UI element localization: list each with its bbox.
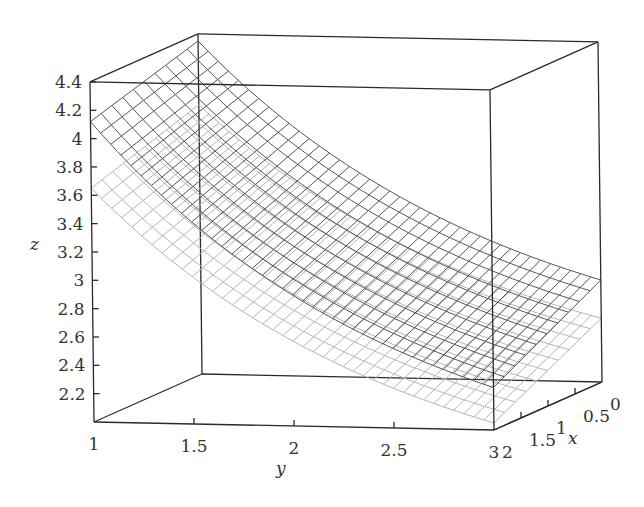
x-tick-label: 1.5 <box>529 430 556 450</box>
z-tick-label: 2.8 <box>58 299 85 319</box>
x-tick-label: 0.5 <box>583 406 610 426</box>
z-tick-label: 3.6 <box>56 185 83 205</box>
x-axis-label: x <box>568 428 578 448</box>
x-axis-ticks: 00.511.52 <box>502 388 621 462</box>
z-tick-label: 4 <box>72 129 83 149</box>
x-tick-label: 1 <box>556 418 567 438</box>
z-tick-label: 3.2 <box>57 242 84 262</box>
z-tick-label: 4.4 <box>55 72 82 92</box>
z-tick-label: 2.4 <box>58 355 85 375</box>
x-tick-label: 0 <box>610 394 621 414</box>
z-tick-label: 3 <box>74 270 85 290</box>
z-tick-label: 3.8 <box>56 157 83 177</box>
surface-plot: 2.22.42.62.833.23.43.63.844.24.4 11.522.… <box>0 0 644 507</box>
z-tick-label: 2.6 <box>58 327 85 347</box>
y-tick-label: 3 <box>489 442 500 462</box>
y-axis-ticks: 11.522.53 <box>89 418 500 462</box>
z-tick-label: 3.4 <box>57 214 84 234</box>
y-tick-label: 1.5 <box>180 436 207 456</box>
y-tick-label: 1 <box>89 434 100 454</box>
y-axis-label: y <box>275 458 286 478</box>
z-axis-label: z <box>29 234 40 254</box>
x-tick-label: 2 <box>502 442 513 462</box>
lower-surface-mesh <box>91 105 601 423</box>
plot-box-back <box>94 34 602 430</box>
z-tick-label: 2.2 <box>59 384 86 404</box>
y-tick-label: 2.5 <box>380 440 407 460</box>
y-tick-label: 2 <box>289 438 300 458</box>
z-tick-label: 4.2 <box>55 100 82 120</box>
